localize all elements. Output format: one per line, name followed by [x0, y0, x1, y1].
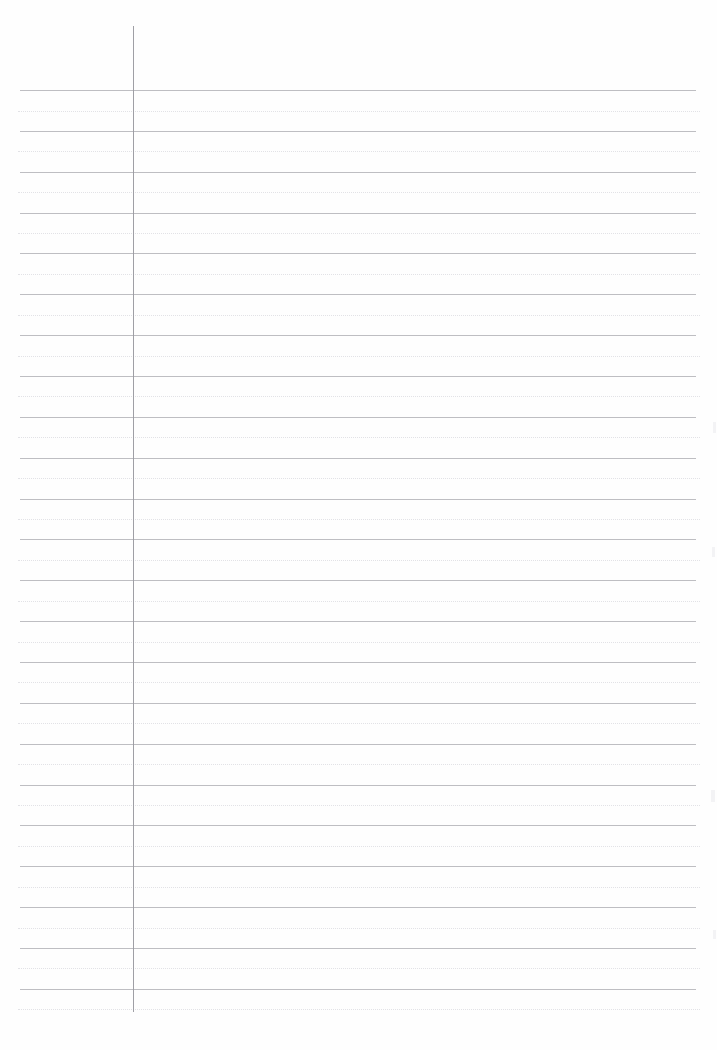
ruled-line-dotted: [18, 764, 700, 765]
ruled-line-dotted: [18, 723, 700, 724]
ruled-line-dotted: [18, 437, 700, 438]
ruled-line-dotted: [18, 846, 700, 847]
ruled-line-dotted: [18, 151, 700, 152]
ruled-line-solid: [20, 499, 696, 500]
ruled-line-solid: [20, 294, 696, 295]
ruled-line-dotted: [18, 274, 700, 275]
paper-edge-mark: [713, 930, 716, 939]
ruled-line-dotted: [18, 356, 700, 357]
ruled-line-solid: [20, 580, 696, 581]
margin-rule-vertical: [133, 26, 134, 1012]
ruled-line-dotted: [18, 560, 700, 561]
paper-edge-mark: [713, 422, 716, 433]
ruled-line-solid: [20, 172, 696, 173]
ruled-line-solid: [20, 948, 696, 949]
ruled-line-solid: [20, 539, 696, 540]
ruled-line-dotted: [18, 1009, 700, 1010]
paper-surface: [0, 0, 717, 1050]
paper-edge-mark: [712, 547, 715, 557]
ruled-line-solid: [20, 662, 696, 663]
ruled-line-dotted: [18, 396, 700, 397]
ruled-line-solid: [20, 90, 696, 91]
ruled-line-dotted: [18, 315, 700, 316]
ruled-line-dotted: [18, 968, 700, 969]
ruled-line-solid: [20, 458, 696, 459]
ruled-line-dotted: [18, 192, 700, 193]
ruled-line-solid: [20, 621, 696, 622]
ruled-line-dotted: [18, 928, 700, 929]
ruled-line-solid: [20, 744, 696, 745]
ruled-line-solid: [20, 417, 696, 418]
ruled-line-solid: [20, 335, 696, 336]
ruled-line-solid: [20, 376, 696, 377]
ruled-line-solid: [20, 989, 696, 990]
ruled-line-dotted: [18, 478, 700, 479]
notebook-page: [0, 0, 717, 1050]
ruled-line-dotted: [18, 642, 700, 643]
ruled-line-dotted: [18, 682, 700, 683]
ruled-line-solid: [20, 213, 696, 214]
ruled-line-solid: [20, 131, 696, 132]
ruled-line-dotted: [18, 233, 700, 234]
ruled-line-solid: [20, 825, 696, 826]
ruled-line-dotted: [18, 111, 700, 112]
ruled-line-solid: [20, 253, 696, 254]
ruled-line-solid: [20, 907, 696, 908]
ruled-line-solid: [20, 866, 696, 867]
ruled-line-dotted: [18, 805, 700, 806]
ruled-line-solid: [20, 785, 696, 786]
paper-edge-mark: [711, 790, 715, 802]
ruled-line-dotted: [18, 519, 700, 520]
ruled-line-dotted: [18, 601, 700, 602]
ruled-line-dotted: [18, 887, 700, 888]
ruled-line-solid: [20, 703, 696, 704]
